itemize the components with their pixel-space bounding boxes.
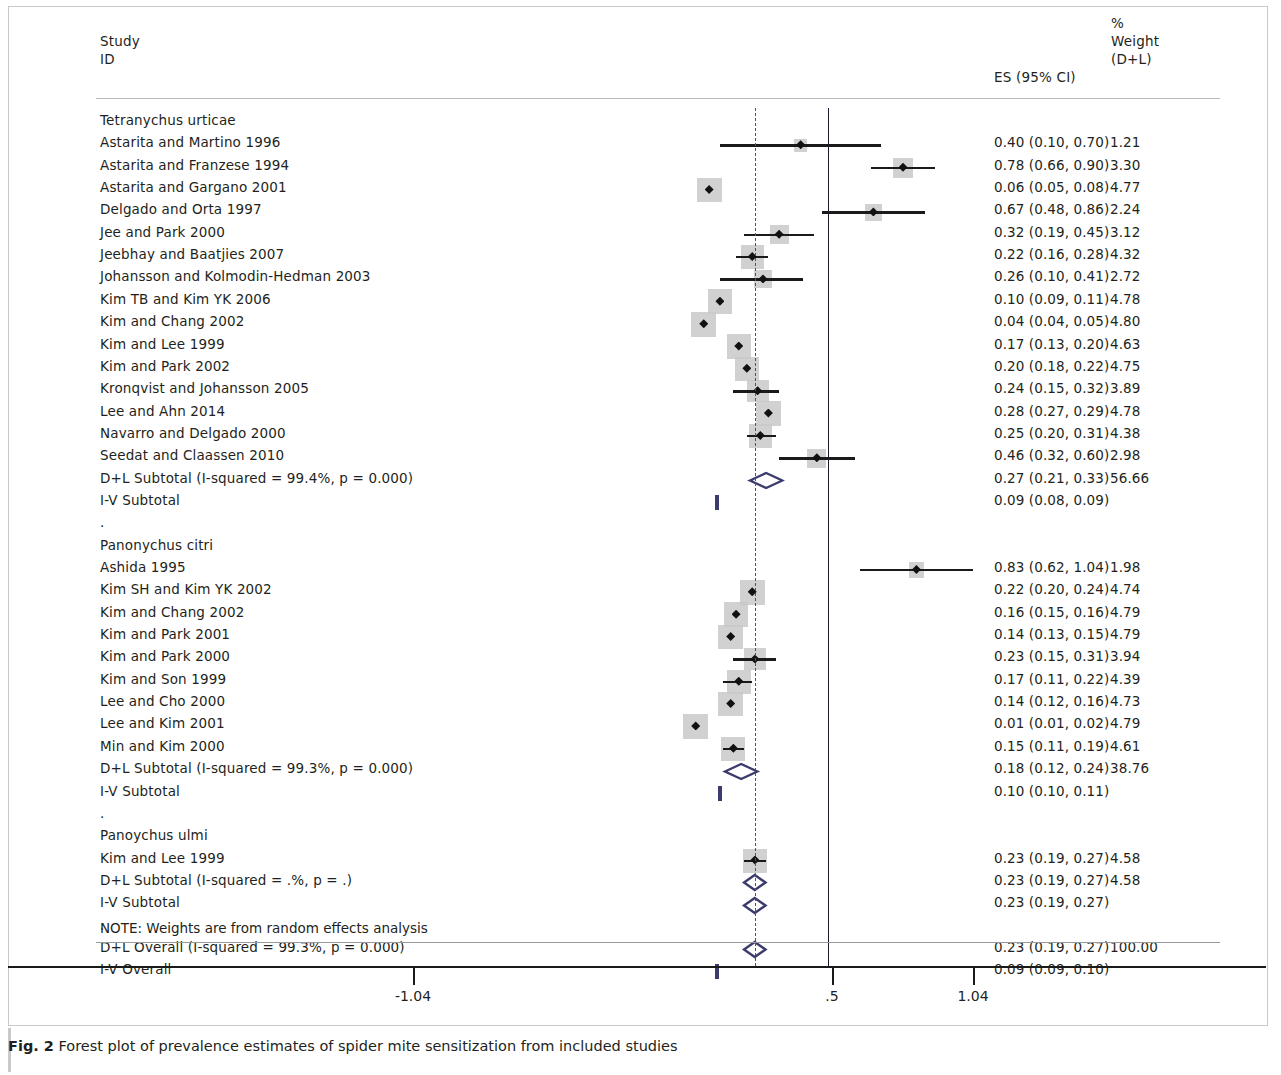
iv-summary-bar	[715, 495, 719, 510]
weight-value: 4.73	[1110, 693, 1140, 709]
weight-value: 4.58	[1110, 872, 1140, 888]
group-heading-3: Panoychus ulmi	[100, 827, 208, 843]
es-value: 0.16 (0.15, 0.16)	[994, 604, 1109, 620]
x-axis-line	[8, 966, 1266, 968]
weight-value: 1.21	[1110, 134, 1140, 150]
es-value: 0.09 (0.08, 0.09)	[994, 492, 1109, 508]
figure-caption-text: Forest plot of prevalence estimates of s…	[59, 1038, 678, 1054]
study-label: Delgado and Orta 1997	[100, 201, 262, 217]
es-value: 0.25 (0.20, 0.31)	[994, 425, 1109, 441]
es-value: 0.78 (0.66, 0.90)	[994, 157, 1109, 173]
study-label: Kim TB and Kim YK 2006	[100, 291, 271, 307]
es-value: 0.67 (0.48, 0.86)	[994, 201, 1109, 217]
es-value: 0.15 (0.11, 0.19)	[994, 738, 1109, 754]
study-label: Kim and Park 2000	[100, 648, 230, 664]
study-label: Kim and Lee 1999	[100, 336, 225, 352]
es-value: 0.14 (0.12, 0.16)	[994, 693, 1109, 709]
study-label: Johansson and Kolmodin-Hedman 2003	[100, 268, 371, 284]
es-value: 0.17 (0.11, 0.22)	[994, 671, 1109, 687]
es-value: 0.14 (0.13, 0.15)	[994, 626, 1109, 642]
es-value: 0.10 (0.09, 0.11)	[994, 291, 1109, 307]
weight-value: 4.63	[1110, 336, 1140, 352]
es-value: 0.83 (0.62, 1.04)	[994, 559, 1109, 575]
es-value: 0.10 (0.10, 0.11)	[994, 783, 1109, 799]
weight-value: 4.79	[1110, 626, 1140, 642]
study-label: Jeebhay and Baatjies 2007	[100, 246, 284, 262]
study-label: Astarita and Martino 1996	[100, 134, 280, 150]
es-value: 0.46 (0.32, 0.60)	[994, 447, 1109, 463]
weight-value: 4.61	[1110, 738, 1140, 754]
weight-value: 4.79	[1110, 604, 1140, 620]
axis-tick-label: .5	[825, 988, 838, 1004]
es-value: 0.04 (0.04, 0.05)	[994, 313, 1109, 329]
axis-tick-label: 1.04	[957, 988, 988, 1004]
study-label: Lee and Kim 2001	[100, 715, 225, 731]
dl-subtotal-label: D+L Subtotal (I-squared = 99.3%, p = 0.0…	[100, 760, 413, 776]
axis-tick	[973, 967, 975, 985]
es-value: 0.06 (0.05, 0.08)	[994, 179, 1109, 195]
study-label: Kim SH and Kim YK 2002	[100, 581, 272, 597]
weight-value: 1.98	[1110, 559, 1140, 575]
axis-tick	[832, 967, 834, 985]
weight-value: 38.76	[1110, 760, 1149, 776]
weight-value: 4.78	[1110, 291, 1140, 307]
study-label: Lee and Cho 2000	[100, 693, 225, 709]
null-effect-line	[828, 108, 830, 966]
weight-value: 4.58	[1110, 850, 1140, 866]
weight-value: 4.74	[1110, 581, 1140, 597]
study-label: Kim and Chang 2002	[100, 604, 244, 620]
es-value: 0.28 (0.27, 0.29)	[994, 403, 1109, 419]
weight-value: 4.78	[1110, 403, 1140, 419]
es-value: 0.26 (0.10, 0.41)	[994, 268, 1109, 284]
study-label: Ashida 1995	[100, 559, 186, 575]
weight-value: 4.75	[1110, 358, 1140, 374]
weight-value: 3.89	[1110, 380, 1140, 396]
study-label: Seedat and Claassen 2010	[100, 447, 284, 463]
group-spacer-dot: .	[100, 514, 104, 530]
es-value: 0.18 (0.12, 0.24)	[994, 760, 1109, 776]
study-label: Min and Kim 2000	[100, 738, 225, 754]
es-value: 0.09 (0.09, 0.10)	[994, 961, 1109, 977]
group-heading-1: Tetranychus urticae	[100, 112, 236, 128]
weight-value: 4.38	[1110, 425, 1140, 441]
weight-value: 3.12	[1110, 224, 1140, 240]
axis-tick	[413, 967, 415, 985]
es-value: 0.27 (0.21, 0.33)	[994, 470, 1109, 486]
es-value: 0.22 (0.20, 0.24)	[994, 581, 1109, 597]
study-label: Kim and Park 2001	[100, 626, 230, 642]
es-value: 0.20 (0.18, 0.22)	[994, 358, 1109, 374]
weight-value: 2.24	[1110, 201, 1140, 217]
es-value: 0.23 (0.19, 0.27)	[994, 872, 1109, 888]
es-value: 0.17 (0.13, 0.20)	[994, 336, 1109, 352]
dl-subtotal-label: D+L Subtotal (I-squared = .%, p = .)	[100, 872, 352, 888]
es-value: 0.24 (0.15, 0.32)	[994, 380, 1109, 396]
study-label: Jee and Park 2000	[100, 224, 225, 240]
study-label: Kim and Lee 1999	[100, 850, 225, 866]
group-spacer-dot: .	[100, 805, 104, 821]
weight-value: 56.66	[1110, 470, 1149, 486]
summary-diamond	[747, 471, 785, 490]
group-heading-2: Panonychus citri	[100, 537, 213, 553]
es-value: 0.23 (0.19, 0.27)	[994, 894, 1109, 910]
es-value: 0.01 (0.01, 0.02)	[994, 715, 1109, 731]
es-value: 0.23 (0.15, 0.31)	[994, 648, 1109, 664]
study-label: Lee and Ahn 2014	[100, 403, 225, 419]
weight-value: 4.77	[1110, 179, 1140, 195]
iv-subtotal-label: I-V Subtotal	[100, 783, 180, 799]
study-label: Kim and Chang 2002	[100, 313, 244, 329]
es-value: 0.40 (0.10, 0.70)	[994, 134, 1109, 150]
study-label: Navarro and Delgado 2000	[100, 425, 286, 441]
figure-caption: Fig. 2 Forest plot of prevalence estimat…	[8, 1038, 1268, 1054]
study-label: Astarita and Gargano 2001	[100, 179, 287, 195]
axis-tick-label: -1.04	[395, 988, 431, 1004]
iv-summary-bar	[718, 786, 722, 801]
study-label: Kim and Son 1999	[100, 671, 226, 687]
weight-value: 2.98	[1110, 447, 1140, 463]
study-label: Astarita and Franzese 1994	[100, 157, 289, 173]
note-text: NOTE: Weights are from random effects an…	[100, 920, 428, 936]
weight-value: 3.94	[1110, 648, 1140, 664]
es-value: 0.32 (0.19, 0.45)	[994, 224, 1109, 240]
forest-plot-figure: Study ID ES (95% CI) % Weight (D+L) Tetr…	[0, 0, 1281, 1075]
weight-value: 4.32	[1110, 246, 1140, 262]
es-value: 0.22 (0.16, 0.28)	[994, 246, 1109, 262]
